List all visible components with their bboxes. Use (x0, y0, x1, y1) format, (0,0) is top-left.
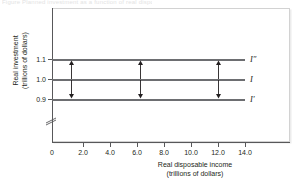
x-tick-label-12-0: 12.0 (206, 149, 230, 158)
line-label-i-double-prime: I″ (250, 55, 256, 64)
x-tick-label-10-0: 10.0 (179, 149, 203, 158)
shift-arrow-up (68, 60, 75, 79)
x-tick-mark (245, 143, 246, 147)
y-axis-title: Real investment (trillions of dollars) (12, 0, 29, 123)
y-tick-label-text: 1.1 (26, 56, 46, 63)
shift-arrow-down (137, 80, 144, 99)
x-tick-label-text: 10.0 (179, 149, 203, 156)
investment-income-figure: Figure Planned investment as a function … (0, 0, 303, 186)
x-tick-label-4-0: 4.0 (98, 149, 122, 158)
x-tick-label-14-0: 14.0 (233, 149, 257, 158)
x-tick-label-text: 6.0 (125, 149, 149, 156)
x-tick-mark (137, 143, 138, 147)
x-axis-title-line2: (trillions of dollars) (120, 169, 270, 178)
x-tick-label-text: 8.0 (152, 149, 176, 156)
x-tick-mark (110, 143, 111, 147)
y-tick-label-text: 1.0 (26, 76, 46, 83)
investment-line-i-prime (52, 99, 245, 101)
x-tick-label-text: 12.0 (206, 149, 230, 156)
x-tick-label-text: 0 (40, 149, 64, 156)
x-tick-label-2-0: 2.0 (71, 149, 95, 158)
x-tick-mark (83, 143, 84, 147)
y-axis-title-line1: Real investment (12, 0, 21, 123)
plot-frame (52, 8, 290, 142)
y-tick-label-0-9: 0.9 (26, 96, 46, 104)
x-tick-label-text: 14.0 (233, 149, 257, 156)
y-tick-label-1-0: 1.0 (26, 76, 46, 84)
shift-arrow-down (215, 80, 222, 99)
x-tick-label-text: 2.0 (71, 149, 95, 156)
x-tick-label-0: 0 (40, 149, 64, 158)
x-tick-mark (218, 143, 219, 147)
x-tick-label-text: 4.0 (98, 149, 122, 156)
shift-arrow-up (215, 60, 222, 79)
line-label-i: I (250, 75, 253, 84)
x-axis-title-line1: Real disposable income (120, 160, 270, 169)
shift-arrow-down (68, 80, 75, 99)
y-axis-break-icon (45, 114, 60, 130)
x-tick-mark (164, 143, 165, 147)
x-tick-mark (191, 143, 192, 147)
x-tick-label-6-0: 6.0 (125, 149, 149, 158)
y-axis-title-line2: (trillions of dollars) (20, 0, 29, 123)
shift-arrow-up (137, 60, 144, 79)
x-axis-line (52, 142, 290, 143)
x-tick-label-8-0: 8.0 (152, 149, 176, 158)
y-tick-label-text: 0.9 (26, 96, 46, 103)
x-axis-title: Real disposable income (trillions of dol… (120, 160, 270, 178)
line-label-i-prime: I′ (250, 95, 255, 104)
y-tick-label-1-1: 1.1 (26, 56, 46, 64)
